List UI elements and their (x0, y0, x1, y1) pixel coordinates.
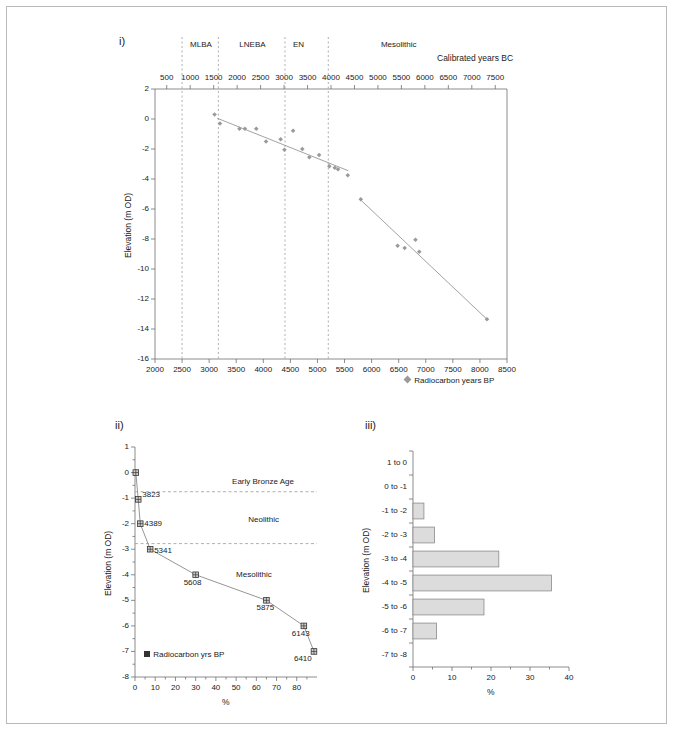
panel-i-bottom-tick-3000: 3000 (195, 365, 223, 374)
panel-iii-category-0: 1 to 0 (357, 458, 407, 467)
panel-iii-category-2: -1 to -2 (357, 506, 407, 515)
panel-i-bottom-tick-6000: 6000 (358, 365, 386, 374)
panel-i-legend: Radiocarbon years BP (403, 375, 494, 385)
panel-i-y-tick--16: -16 (125, 354, 149, 363)
panel-ii-point-label-6143: 6143 (292, 629, 310, 638)
panel-iii-label: iii) (365, 419, 376, 431)
panel-iii-bar-6 (413, 599, 484, 615)
panel-ii-era-early-bronze-age: Early Bronze Age (232, 477, 294, 486)
panel-iii-x-tick-30: 30 (520, 673, 540, 682)
panel-iii-bar-2 (413, 503, 424, 519)
figure-frame: i) Calibrated years BC Elevation (m OD) … (6, 6, 667, 724)
panel-ii-x-tick-50: 50 (226, 683, 246, 692)
panel-ii-x-tick-0: 0 (125, 683, 145, 692)
panel-ii-point-label-3823: 3823 (142, 490, 160, 499)
panel-ii-y-tick--8: -8 (107, 672, 129, 681)
panel-i-bottom-tick-7500: 7500 (439, 365, 467, 374)
panel-i-label: i) (119, 35, 125, 47)
panel-ii-y-tick--2: -2 (107, 519, 129, 528)
panel-i-bottom-tick-8500: 8500 (493, 365, 521, 374)
panel-iii-x-tick-20: 20 (481, 673, 501, 682)
panel-i-y-axis-title: Elevation (m OD) (123, 193, 133, 258)
panel-ii-y-tick--4: -4 (107, 570, 129, 579)
panel-i-bottom-tick-2000: 2000 (141, 365, 169, 374)
panel-i-bottom-tick-4000: 4000 (249, 365, 277, 374)
panel-iii-category-1: 0 to -1 (357, 482, 407, 491)
panel-iii-bar-5 (413, 575, 551, 591)
panel-ii-y-tick--1: -1 (107, 493, 129, 502)
panel-iii-bar-7 (413, 623, 436, 639)
panel-ii-era-neolithic: Neolithic (248, 515, 279, 524)
panel-i-bottom-tick-4500: 4500 (276, 365, 304, 374)
panel-ii-y-tick--6: -6 (107, 621, 129, 630)
panel-i-bottom-tick-5000: 5000 (303, 365, 331, 374)
panel-ii-x-tick-40: 40 (206, 683, 226, 692)
panel-ii-point-label-5608: 5608 (184, 578, 202, 587)
panel-i-legend-label: Radiocarbon years BP (414, 376, 494, 385)
panel-ii-point-label-5341: 5341 (154, 546, 172, 555)
panel-iii: iii) Elevation (m OD) % 1 to 00 to -1-1 … (347, 411, 668, 725)
panel-iii-category-5: -4 to -5 (357, 578, 407, 587)
panel-i-period-EN: EN (269, 40, 329, 49)
panel-iii-bar-4 (413, 551, 499, 567)
panel-i-bottom-tick-2500: 2500 (168, 365, 196, 374)
panel-ii-y-tick-0: 0 (107, 468, 129, 477)
panel-iii-category-7: -6 to -7 (357, 626, 407, 635)
panel-ii-y-tick-1: 1 (107, 442, 129, 451)
panel-i-y-tick--4: -4 (125, 174, 149, 183)
panel-i-bottom-tick-6500: 6500 (385, 365, 413, 374)
panel-iii-x-tick-0: 0 (403, 673, 423, 682)
panel-i-y-tick--8: -8 (125, 234, 149, 243)
panel-i-bottom-tick-5500: 5500 (331, 365, 359, 374)
panel-ii-label: ii) (115, 419, 124, 431)
panel-i-y-tick--2: -2 (125, 144, 149, 153)
panel-ii-era-mesolithic: Mesolithic (236, 570, 272, 579)
panel-ii-y-tick--5: -5 (107, 595, 129, 604)
panel-i-plot (7, 7, 668, 407)
panel-iii-x-axis-title: % (487, 687, 495, 697)
panel-ii-x-tick-60: 60 (246, 683, 266, 692)
panel-ii-x-tick-10: 10 (145, 683, 165, 692)
panel-ii-x-tick-80: 80 (287, 683, 307, 692)
panel-i-bottom-tick-7000: 7000 (412, 365, 440, 374)
panel-i-y-tick--14: -14 (125, 324, 149, 333)
panel-iii-x-tick-40: 40 (559, 673, 579, 682)
panel-ii-x-tick-70: 70 (267, 683, 287, 692)
panel-i-bottom-tick-8000: 8000 (466, 365, 494, 374)
diamond-marker-icon (403, 375, 412, 384)
panel-i-y-tick--6: -6 (125, 204, 149, 213)
panel-ii: ii) Elevation (m OD) % Radiocarbon yrs B… (7, 411, 347, 725)
panel-iii-category-3: -2 to -3 (357, 530, 407, 539)
square-marker-icon (143, 650, 151, 658)
panel-iii-category-6: -5 to -6 (357, 602, 407, 611)
panel-ii-x-tick-30: 30 (186, 683, 206, 692)
panel-ii-point-label-4389: 4389 (144, 519, 162, 528)
panel-i-bottom-tick-3500: 3500 (222, 365, 250, 374)
panel-ii-point-label-5875: 5875 (256, 603, 274, 612)
panel-i-y-tick--12: -12 (125, 294, 149, 303)
panel-i-top-tick-7500: 7500 (481, 73, 509, 82)
panel-ii-point-label-6410: 6410 (294, 654, 312, 663)
panel-i-y-tick-2: 2 (125, 84, 149, 93)
panel-iii-x-tick-10: 10 (442, 673, 462, 682)
panel-ii-legend: Radiocarbon yrs BP (143, 650, 224, 659)
panel-iii-bar-3 (413, 527, 434, 543)
panel-ii-y-tick--7: -7 (107, 646, 129, 655)
panel-i-top-axis-title: Calibrated years BC (437, 53, 513, 63)
panel-iii-category-8: -7 to -8 (357, 650, 407, 659)
panel-i-period-Mesolithic: Mesolithic (369, 40, 429, 49)
panel-i-y-tick-0: 0 (125, 114, 149, 123)
panel-ii-x-axis-title: % (222, 697, 230, 707)
panel-i: i) Calibrated years BC Elevation (m OD) … (7, 7, 668, 407)
panel-ii-legend-label: Radiocarbon yrs BP (153, 650, 224, 659)
panel-ii-x-tick-20: 20 (165, 683, 185, 692)
panel-ii-y-axis-title: Elevation (m OD) (103, 531, 113, 596)
panel-ii-y-tick--3: -3 (107, 544, 129, 553)
panel-i-y-tick--10: -10 (125, 264, 149, 273)
panel-ii-plot (7, 411, 347, 725)
panel-iii-category-4: -3 to -4 (357, 554, 407, 563)
